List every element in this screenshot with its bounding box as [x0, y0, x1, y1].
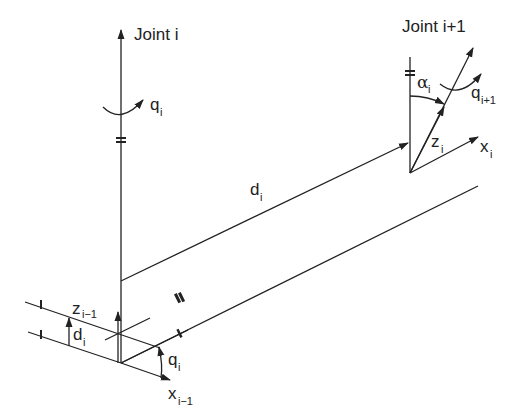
svg-text:i: i: [178, 361, 180, 373]
joint-i1-label: Joint i+1: [402, 17, 466, 36]
alpha-i-label: α i: [417, 72, 430, 95]
x-i-1-label: x i−1: [168, 384, 193, 407]
svg-text:z: z: [72, 299, 81, 318]
svg-text:z: z: [431, 132, 440, 151]
svg-text:i: i: [428, 83, 430, 95]
d-i-offset-label: d i: [73, 325, 85, 348]
z-i-1-label: z i−1: [72, 299, 97, 320]
x-i-axis: [121, 137, 478, 363]
alpha-arc: [410, 96, 444, 104]
svg-text:q: q: [471, 83, 480, 102]
dh-diagram: Joint i Joint i+1 q i q i+1 α i z i x i …: [0, 0, 519, 420]
svg-text:i−1: i−1: [178, 395, 193, 407]
joint-i-label: Joint i: [134, 25, 178, 44]
q-i-bottom-label: q i: [168, 350, 180, 373]
svg-text:x: x: [480, 137, 489, 156]
x-i-label: x i: [480, 137, 492, 160]
svg-text:i: i: [160, 106, 162, 118]
q-i1-label: q i+1: [471, 83, 496, 106]
svg-text:i−1: i−1: [82, 308, 97, 320]
svg-text:q: q: [168, 350, 177, 369]
z-i-label: z i: [431, 132, 443, 155]
q-i-top-label: q i: [150, 95, 162, 118]
svg-text:q: q: [150, 95, 159, 114]
svg-text:i: i: [441, 143, 443, 155]
svg-text:i: i: [83, 336, 85, 348]
rotation-q-i-icon: [103, 100, 143, 115]
svg-text:x: x: [168, 384, 177, 403]
z-i-1-frame: [25, 300, 188, 380]
diagram-canvas: Joint i Joint i+1 q i q i+1 α i z i x i …: [0, 0, 519, 420]
svg-text:i: i: [260, 191, 262, 203]
svg-text:i: i: [490, 148, 492, 160]
svg-text:i+1: i+1: [481, 94, 496, 106]
link-upper-line: [121, 143, 408, 281]
d-i-link-label: d i: [250, 180, 262, 203]
svg-text:d: d: [73, 325, 82, 344]
svg-text:d: d: [250, 180, 259, 199]
joint-i1-reference: [405, 57, 415, 173]
